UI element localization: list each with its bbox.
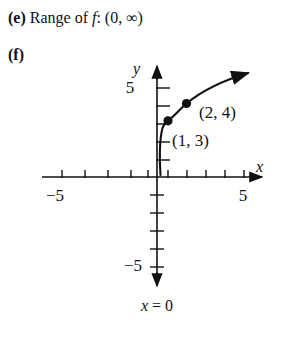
point-1-3-marker	[163, 116, 172, 125]
asymptote-variable: x	[140, 297, 148, 314]
y-axis-variable-label: y	[131, 60, 141, 78]
point-1-3-label: (1, 3)	[172, 131, 209, 150]
asymptote-equation: = 0	[152, 297, 173, 314]
y-axis-label-neg5: −5	[124, 256, 142, 275]
function-curve	[160, 73, 248, 175]
graph-figure: y x 5 −5 −5 5 (2, 4) (1, 3) x= 0	[0, 0, 291, 338]
y-axis-label-5: 5	[126, 78, 135, 97]
point-2-4-marker	[182, 99, 191, 108]
point-2-4-label: (2, 4)	[199, 103, 236, 122]
x-axis-label-5: 5	[239, 186, 248, 205]
figure-page: (e) Range of f: (0, ∞) (f)	[0, 0, 291, 338]
x-axis-label-neg5: −5	[46, 186, 64, 205]
x-axis-variable-label: x	[255, 158, 263, 175]
asymptote-label: x= 0	[140, 297, 173, 314]
